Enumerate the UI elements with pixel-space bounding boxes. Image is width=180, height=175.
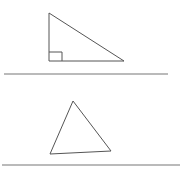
acute-triangle: [50, 101, 111, 154]
diagram-canvas: [0, 0, 180, 175]
diagram-svg: [0, 0, 180, 175]
right-angle-marker: [49, 52, 62, 61]
right-triangle: [49, 13, 124, 61]
